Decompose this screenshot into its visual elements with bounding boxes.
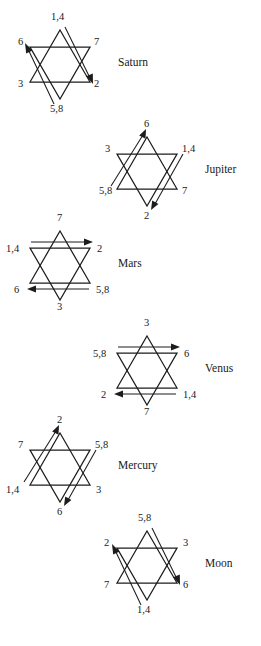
saturn-vertex-upper-right: 7 — [94, 37, 99, 48]
mars-vertex-upper-right: 2 — [97, 244, 102, 255]
jupiter-vertex-upper-left: 3 — [105, 144, 110, 155]
mars-arrow-head-1 — [84, 239, 93, 246]
saturn-vertex-lower-left: 3 — [18, 79, 23, 90]
saturn-vertex-bottom: 5,8 — [50, 104, 63, 115]
jupiter-vertex-upper-right: 1,4 — [182, 144, 195, 155]
mars-upward-triangle — [30, 231, 90, 283]
mercury-vertex-lower-left: 1,4 — [6, 485, 19, 496]
saturn-arrow-line-1 — [28, 49, 54, 104]
venus-vertex-upper-right: 6 — [184, 349, 189, 360]
venus-star-svg — [105, 318, 261, 426]
diagram-page: 1,4 6 7 3 2 5,8 Saturn 6 3 1,4 5,8 7 2 J… — [0, 0, 261, 646]
venus-arrow-head-1 — [171, 344, 180, 351]
venus-vertex-lower-left: 2 — [101, 390, 106, 401]
figure-moon: 5,8 2 3 7 6 1,4 Moon — [105, 513, 261, 621]
mars-vertex-upper-left: 1,4 — [6, 244, 19, 255]
venus-vertex-upper-left: 5,8 — [93, 349, 106, 360]
mars-vertex-lower-right: 5,8 — [96, 285, 109, 296]
saturn-vertex-upper-left: 6 — [18, 37, 23, 48]
mars-planet-label: Mars — [118, 257, 142, 269]
mercury-vertex-upper-right: 5,8 — [95, 440, 108, 451]
venus-vertex-top: 3 — [144, 318, 149, 329]
moon-vertex-top: 5,8 — [138, 513, 151, 524]
venus-upward-triangle — [117, 336, 177, 388]
mercury-arrow-head-1 — [52, 425, 59, 435]
mercury-arrow-line-1 — [24, 431, 56, 482]
jupiter-arrow-head-2 — [151, 200, 158, 210]
figure-mercury: 2 7 5,8 1,4 3 6 Mercury — [18, 415, 178, 523]
moon-vertex-bottom: 1,4 — [137, 605, 150, 616]
venus-vertex-lower-right: 1,4 — [183, 390, 196, 401]
mars-vertex-lower-left: 6 — [14, 285, 19, 296]
figure-saturn: 1,4 6 7 3 2 5,8 Saturn — [18, 12, 178, 120]
moon-vertex-upper-left: 2 — [104, 538, 109, 549]
moon-planet-label: Moon — [205, 557, 232, 569]
mars-downward-triangle — [30, 248, 90, 300]
moon-star-svg — [105, 513, 261, 621]
mercury-vertex-bottom: 6 — [57, 507, 62, 518]
moon-vertex-lower-left: 7 — [104, 580, 109, 591]
mercury-arrow-head-2 — [64, 496, 71, 506]
moon-arrow-line-1 — [115, 550, 141, 605]
jupiter-star-svg — [105, 119, 261, 227]
mercury-vertex-upper-left: 7 — [18, 440, 23, 451]
figure-venus: 3 5,8 6 2 1,4 7 Venus — [105, 318, 261, 426]
mars-vertex-top: 7 — [57, 213, 62, 224]
mercury-vertex-lower-right: 3 — [96, 485, 101, 496]
saturn-star-svg — [18, 12, 178, 120]
jupiter-vertex-top: 6 — [144, 119, 149, 130]
jupiter-vertex-lower-right: 7 — [182, 186, 187, 197]
venus-arrow-head-2 — [114, 391, 123, 398]
figure-mars: 7 1,4 2 6 5,8 3 Mars — [18, 213, 178, 321]
jupiter-arrow-line-2 — [155, 154, 183, 204]
jupiter-planet-label: Jupiter — [205, 163, 236, 175]
moon-arrow-head-1 — [112, 544, 120, 554]
venus-downward-triangle — [117, 353, 177, 405]
mars-star-svg — [18, 213, 178, 321]
jupiter-arrow-line-1 — [111, 135, 143, 186]
mercury-planet-label: Mercury — [118, 459, 158, 471]
mars-vertex-bottom: 3 — [57, 302, 62, 313]
saturn-planet-label: Saturn — [118, 56, 148, 68]
figure-jupiter: 6 3 1,4 5,8 7 2 Jupiter — [105, 119, 261, 227]
jupiter-vertex-lower-left: 5,8 — [99, 186, 112, 197]
saturn-vertex-top: 1,4 — [51, 12, 64, 23]
saturn-vertex-lower-right: 2 — [94, 79, 99, 90]
mars-arrow-head-2 — [27, 286, 36, 293]
moon-vertex-lower-right: 6 — [183, 580, 188, 591]
venus-planet-label: Venus — [205, 362, 233, 374]
saturn-arrow-head-1 — [25, 43, 33, 53]
mercury-vertex-top: 2 — [57, 415, 62, 426]
jupiter-arrow-head-1 — [139, 129, 146, 139]
moon-vertex-upper-right: 3 — [183, 538, 188, 549]
saturn-upward-triangle — [30, 30, 90, 82]
moon-upward-triangle — [117, 531, 177, 583]
mercury-arrow-line-2 — [68, 450, 96, 500]
